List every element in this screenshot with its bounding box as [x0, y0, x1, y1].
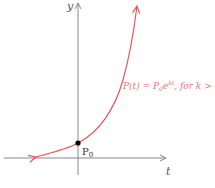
- x-axis-label: t: [166, 165, 171, 178]
- y-axis-label: y: [66, 0, 74, 13]
- growth-curve: [36, 6, 137, 157]
- initial-point: [75, 140, 80, 145]
- point-label: P0: [82, 146, 93, 159]
- curve-equation-label: P(t) = P0ekt, for k > 0: [122, 79, 215, 92]
- exponential-diagram: t y P0 P(t) = P0ekt, for k > 0: [0, 0, 215, 188]
